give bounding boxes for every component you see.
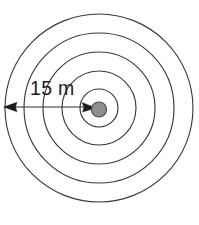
point-source-dot-icon bbox=[92, 102, 107, 117]
wave-diagram-figure: 15 m bbox=[0, 0, 199, 225]
radius-label: 15 m bbox=[30, 77, 75, 99]
wave-diagram-canvas: 15 m bbox=[0, 0, 199, 225]
